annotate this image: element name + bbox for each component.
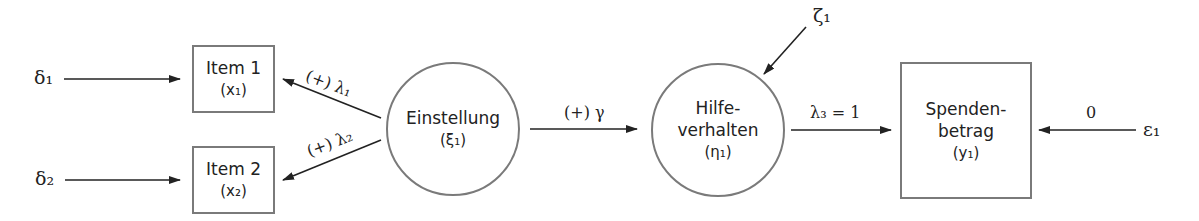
node-einstellung: Einstellung (ξ₁) [386,62,520,196]
item1-label: Item 1 [206,57,261,79]
item1-var: (x₁) [220,79,247,101]
arrow-zeta1-hilfeverhalten [764,27,806,74]
edge-label-epsilon-weight: 0 [1086,103,1096,122]
node-spendenbetrag: Spenden- betrag (y₁) [900,62,1032,199]
item2-var: (x₂) [220,180,247,202]
zeta1-label: ζ₁ [813,4,831,26]
einstellung-label: Einstellung [406,107,500,129]
hilfeverhalten-var: (η₁) [704,141,731,163]
edge-label-lambda3: λ₃ = 1 [810,103,860,122]
spendenbetrag-label-line2: betrag [938,120,994,142]
delta1-label: δ₁ [34,66,53,88]
node-item2: Item 2 (x₂) [192,146,275,214]
einstellung-var: (ξ₁) [440,129,466,151]
node-hilfeverhalten: Hilfe- verhalten (η₁) [651,63,785,197]
hilfeverhalten-label-line2: verhalten [677,119,758,141]
delta2-label: δ₂ [35,167,54,189]
spendenbetrag-var: (y₁) [953,142,980,164]
node-item1: Item 1 (x₁) [192,45,275,113]
spendenbetrag-label-line1: Spenden- [926,98,1007,120]
epsilon1-label: ε₁ [1143,118,1160,140]
hilfeverhalten-label-line1: Hilfe- [696,97,741,119]
item2-label: Item 2 [206,158,261,180]
edge-label-gamma: (+) γ [564,103,605,122]
